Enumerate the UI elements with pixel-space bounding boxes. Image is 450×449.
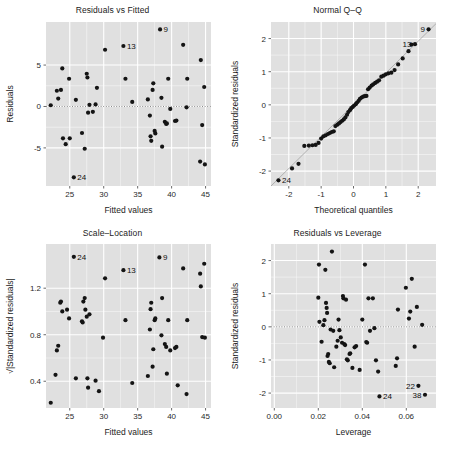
- svg-text:9: 9: [421, 25, 426, 34]
- svg-text:24: 24: [383, 392, 392, 401]
- svg-text:1: 1: [262, 68, 267, 77]
- svg-text:9: 9: [163, 253, 168, 262]
- svg-text:0.02: 0.02: [311, 412, 327, 421]
- svg-text:0: 0: [37, 102, 42, 111]
- svg-text:1: 1: [384, 190, 389, 199]
- svg-text:-2: -2: [259, 389, 267, 398]
- svg-text:√|Standardized residuals|: √|Standardized residuals|: [5, 278, 15, 374]
- svg-text:0: 0: [262, 101, 267, 110]
- svg-text:40: 40: [167, 190, 176, 199]
- diagnostic-plot-grid: Residuals vs Fitted 2530354045-505Fitted…: [0, 0, 450, 449]
- svg-text:Residuals: Residuals: [5, 85, 15, 122]
- svg-text:Theoretical quantiles: Theoretical quantiles: [314, 205, 392, 215]
- svg-text:35: 35: [133, 412, 142, 421]
- svg-text:22: 22: [406, 382, 415, 391]
- svg-text:-1: -1: [259, 134, 267, 143]
- svg-text:45: 45: [201, 412, 210, 421]
- svg-text:13: 13: [403, 40, 412, 49]
- svg-text:0: 0: [262, 323, 267, 332]
- svg-text:40: 40: [167, 412, 176, 421]
- svg-text:30: 30: [99, 412, 108, 421]
- svg-text:35: 35: [133, 190, 142, 199]
- panel-residuals-vs-leverage: Residuals vs Leverage 0.000.020.040.06-2…: [225, 224, 450, 449]
- svg-text:0.00: 0.00: [267, 412, 283, 421]
- plot-residuals-vs-fitted: 2530354045-505Fitted valuesResiduals9132…: [0, 0, 225, 224]
- svg-text:Standardized residuals: Standardized residuals: [230, 61, 240, 147]
- svg-text:13: 13: [127, 266, 136, 275]
- svg-text:1: 1: [262, 290, 267, 299]
- svg-text:-2: -2: [259, 167, 267, 176]
- svg-text:25: 25: [65, 412, 74, 421]
- plot-normal-qq: -2-1012-2-1012Theoretical quantilesStand…: [225, 0, 450, 224]
- svg-text:30: 30: [99, 190, 108, 199]
- svg-text:0.06: 0.06: [399, 412, 415, 421]
- panel-residuals-vs-fitted: Residuals vs Fitted 2530354045-505Fitted…: [0, 0, 225, 224]
- svg-text:0.04: 0.04: [355, 412, 371, 421]
- svg-text:45: 45: [201, 190, 210, 199]
- svg-text:24: 24: [77, 253, 86, 262]
- svg-text:24: 24: [282, 176, 291, 185]
- plot-scale-location: 25303540450.40.81.2Fitted values√|Standa…: [0, 224, 225, 449]
- plot-residuals-vs-leverage: 0.000.020.040.06-2-1012LeverageStandardi…: [225, 224, 450, 449]
- svg-text:38: 38: [413, 391, 422, 400]
- svg-text:2: 2: [262, 35, 267, 44]
- svg-text:Fitted values: Fitted values: [104, 205, 152, 215]
- svg-text:-2: -2: [285, 190, 293, 199]
- svg-text:2: 2: [416, 190, 421, 199]
- svg-text:5: 5: [37, 61, 42, 70]
- panel-scale-location: Scale–Location 25303540450.40.81.2Fitted…: [0, 224, 225, 449]
- svg-text:24: 24: [77, 173, 86, 182]
- svg-text:0: 0: [351, 190, 356, 199]
- svg-text:0.8: 0.8: [30, 331, 42, 340]
- svg-text:-1: -1: [259, 356, 267, 365]
- panel-normal-qq: Normal Q–Q -2-1012-2-1012Theoretical qua…: [225, 0, 450, 224]
- svg-text:9: 9: [164, 25, 169, 34]
- svg-text:13: 13: [127, 42, 136, 51]
- svg-text:1.2: 1.2: [30, 284, 42, 293]
- svg-text:-1: -1: [318, 190, 326, 199]
- svg-text:-5: -5: [34, 144, 42, 153]
- svg-text:Standardized residuals: Standardized residuals: [230, 283, 240, 369]
- svg-text:2: 2: [262, 257, 267, 266]
- svg-text:0.4: 0.4: [30, 377, 42, 386]
- svg-text:Fitted values: Fitted values: [104, 427, 152, 437]
- svg-text:25: 25: [65, 190, 74, 199]
- svg-text:Leverage: Leverage: [336, 427, 372, 437]
